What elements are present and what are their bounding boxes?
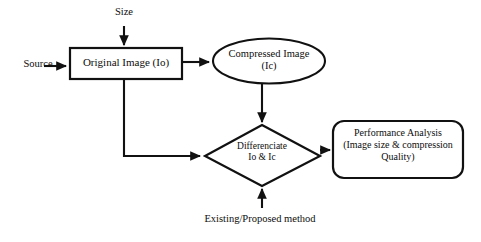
- label-source: Source: [10, 58, 66, 70]
- label-existing-proposed-method: Existing/Proposed method: [182, 213, 338, 225]
- label-compressed-image-line2: (Ic): [217, 60, 321, 72]
- flowchart-diagram: Source Size Original Image (Io) Compress…: [0, 0, 481, 242]
- label-original-image: Original Image (Io): [70, 56, 182, 69]
- label-performance-analysis-line1: Performance Analysis: [337, 127, 459, 139]
- label-performance-analysis-line3: Quality): [337, 151, 459, 163]
- label-size: Size: [98, 6, 150, 18]
- label-differenciate-line2: Io & Ic: [222, 152, 302, 163]
- diagram-shapes-and-connectors: [0, 0, 481, 242]
- label-performance-analysis: Performance Analysis (Image size & compr…: [337, 127, 459, 162]
- label-compressed-image: Compressed Image (Ic): [217, 48, 321, 73]
- label-differenciate-line1: Differenciate: [222, 141, 302, 152]
- connector-original-to-differenciate: [124, 79, 200, 156]
- label-differenciate: Differenciate Io & Ic: [222, 141, 302, 163]
- label-performance-analysis-line2: (Image size & compression: [337, 139, 459, 151]
- label-compressed-image-line1: Compressed Image: [217, 48, 321, 60]
